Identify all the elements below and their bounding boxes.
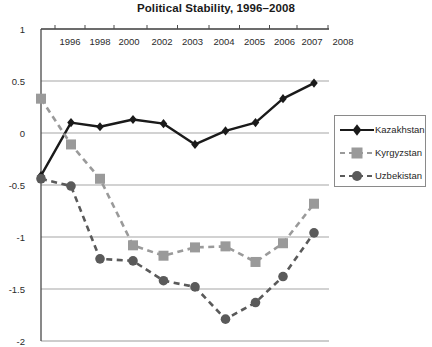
x-tick-label: 2006 xyxy=(274,36,295,47)
data-point-marker xyxy=(221,241,231,251)
x-tick-label: 1996 xyxy=(59,36,80,47)
chart-title: Political Stability, 1996–2008 xyxy=(0,2,432,14)
legend-item-kazakhstan: Kazakhstan xyxy=(335,118,427,142)
data-point-marker xyxy=(251,298,261,308)
legend-item-uzbekistan: Uzbekistan xyxy=(335,164,427,188)
series-line xyxy=(41,83,314,176)
data-point-marker xyxy=(66,181,76,191)
data-point-marker xyxy=(191,140,199,149)
x-tick-label: 2005 xyxy=(244,36,265,47)
data-point-marker xyxy=(159,251,169,261)
data-point-marker xyxy=(221,314,231,324)
axes xyxy=(41,25,329,341)
data-point-marker xyxy=(222,126,230,135)
data-point-marker xyxy=(190,242,200,252)
data-point-marker xyxy=(190,282,200,292)
gridlines xyxy=(41,29,329,341)
x-tick-label: 2003 xyxy=(182,36,203,47)
data-point-marker xyxy=(160,119,168,128)
legend-label-kazakhstan: Kazakhstan xyxy=(375,125,425,135)
y-tick-label: -1 xyxy=(17,232,25,243)
legend-label-uzbekistan: Uzbekistan xyxy=(375,171,422,181)
x-tick-label: 2004 xyxy=(213,36,234,47)
data-series xyxy=(36,78,319,323)
y-tick-label: -1.5 xyxy=(9,284,25,295)
data-point-marker xyxy=(310,78,318,87)
legend-swatch-kyrgyzstan xyxy=(339,144,375,162)
x-tick-label: 2002 xyxy=(151,36,172,47)
chart-legend: Kazakhstan Kyrgyzstan Uzbekistan xyxy=(334,115,426,187)
legend-label-kyrgyzstan: Kyrgyzstan xyxy=(375,148,422,158)
data-point-marker xyxy=(95,254,105,264)
data-point-marker xyxy=(128,240,138,250)
data-point-marker xyxy=(278,238,288,248)
data-point-marker xyxy=(95,174,105,184)
x-tick-label: 2007 xyxy=(301,36,322,47)
series-line xyxy=(41,179,314,319)
data-point-marker xyxy=(66,139,76,149)
data-point-marker xyxy=(36,94,46,104)
data-point-marker xyxy=(309,228,319,238)
y-tick-label: 0 xyxy=(20,128,25,139)
y-tick-label: -2 xyxy=(17,336,25,347)
data-point-marker xyxy=(128,256,138,266)
series-kyrgyzstan xyxy=(36,94,319,267)
y-tick-label: 1 xyxy=(20,24,25,35)
legend-swatch-kazakhstan xyxy=(339,121,375,139)
series-kazakhstan xyxy=(37,78,318,180)
data-point-marker xyxy=(129,115,137,124)
x-tick-label: 2008 xyxy=(332,36,353,47)
data-point-marker xyxy=(251,257,261,267)
legend-swatch-uzbekistan xyxy=(339,167,375,185)
data-point-marker xyxy=(36,174,46,184)
legend-item-kyrgyzstan: Kyrgyzstan xyxy=(335,141,427,165)
data-point-marker xyxy=(278,272,288,282)
data-point-marker xyxy=(96,122,104,131)
y-tick-label: -0.5 xyxy=(9,180,25,191)
data-point-marker xyxy=(309,199,319,209)
data-point-marker xyxy=(159,276,169,286)
x-tick-label: 1998 xyxy=(89,36,110,47)
y-tick-label: 0.5 xyxy=(12,76,25,87)
x-tick-label: 2000 xyxy=(118,36,139,47)
